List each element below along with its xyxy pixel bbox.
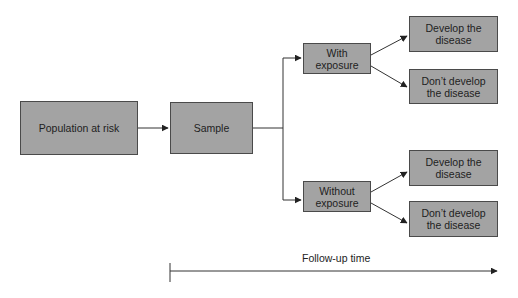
node-label: Sample — [194, 122, 230, 134]
node-label: Don’t develop the disease — [416, 75, 491, 99]
node-label: Don’t develop the disease — [416, 207, 491, 231]
node-without-exposure: Without exposure — [303, 181, 371, 212]
node-label: Develop the disease — [420, 22, 487, 46]
node-population-at-risk: Population at risk — [20, 101, 138, 155]
node-sample: Sample — [170, 102, 253, 154]
node-label: Without exposure — [310, 185, 364, 209]
node-with-exposure-not-develop: Don’t develop the disease — [409, 69, 498, 104]
node-with-exposure: With exposure — [303, 43, 371, 74]
node-label: Develop the disease — [420, 156, 487, 180]
node-without-exposure-develop: Develop the disease — [409, 150, 498, 186]
node-with-exposure-develop: Develop the disease — [409, 16, 498, 52]
node-label: With exposure — [312, 47, 362, 71]
node-label: Population at risk — [39, 122, 120, 134]
node-without-exposure-not-develop: Don’t develop the disease — [409, 201, 498, 237]
timeline-label: Follow-up time — [302, 252, 370, 264]
